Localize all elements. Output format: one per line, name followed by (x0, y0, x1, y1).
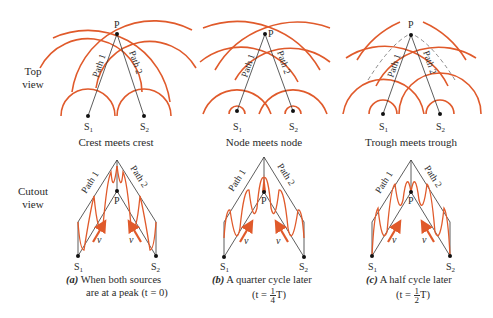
caption-crest-meets-crest: Crest meets crest (78, 136, 153, 148)
row-label-cutout-line2: view (8, 198, 58, 211)
velocity-label-c-left: v (392, 234, 397, 245)
row-label-cutout-view: Cutout view (8, 185, 58, 211)
subcaption-b-time: (t = 14T) (212, 287, 312, 304)
path2-label-c-cut: Path 2 (422, 164, 444, 190)
subcaption-c-letter: (c) (366, 274, 378, 285)
path2-label-a-cut: Path 2 (128, 164, 150, 190)
time-prefix-c: (t = (396, 289, 411, 300)
subcaption-c-line1: A half cycle later (380, 274, 452, 285)
s2-label-b-top: S2 (289, 121, 299, 134)
velocity-label-c-right: v (422, 234, 427, 245)
s2-label-c-top: S2 (436, 121, 446, 134)
subcaption-b: (b) A quarter cycle later (t = 14T) (212, 273, 312, 304)
p-label-b-cut: P (261, 195, 267, 206)
subcaption-a-line2: are at a peak (t = 0) (66, 286, 168, 299)
time-suffix-b: T) (276, 289, 286, 300)
row-label-top-line2: view (8, 78, 58, 91)
source-s2-b-cut (302, 255, 306, 259)
source-s2-a-top (142, 114, 146, 118)
s1-label-b-top: S1 (233, 121, 243, 134)
p-label-b-top: P (268, 28, 274, 39)
source-s1-c-top (381, 112, 385, 116)
subcaption-a-letter: (a) (66, 274, 78, 285)
caption-trough-meets-trough: Trough meets trough (365, 136, 457, 148)
source-s1-b-cut (222, 255, 226, 259)
point-p-c-cut (409, 190, 413, 194)
path1-label-b-cut: Path 1 (226, 167, 248, 193)
p-label-c-top: P (408, 19, 414, 30)
subcaption-a: (a) When both sources are at a peak (t =… (66, 273, 168, 299)
path2-label-b-top: Path 2 (275, 49, 292, 75)
caption-node-meets-node: Node meets node (226, 136, 302, 148)
point-p-c-top (409, 33, 413, 37)
source-s1-c-cut (370, 254, 374, 258)
p-label-a-cut: P (114, 195, 120, 206)
row-label-top-line1: Top (8, 65, 58, 78)
source-s1-a-cut (76, 254, 80, 258)
row-label-cutout-line1: Cutout (8, 185, 58, 198)
velocity-label-b-left: v (244, 235, 249, 246)
s1-label-c-top: S1 (379, 121, 389, 134)
velocity-label-a-right: v (129, 234, 134, 245)
path1-label-b-top: Path 1 (239, 52, 256, 78)
subcaption-b-letter: (b) (212, 274, 224, 285)
point-p-b-top (263, 32, 267, 36)
velocity-label-b-right: v (276, 235, 281, 246)
source-s1-a-top (86, 114, 90, 118)
s2-label-a-top: S2 (140, 121, 150, 134)
midpoint-spike-b (262, 174, 266, 192)
point-p-b-cut (262, 190, 266, 194)
p-label-c-cut: P (408, 195, 414, 206)
source-s2-a-cut (154, 254, 158, 258)
interference-diagram: Path 1 Path 2 Path 1 Path 2 Path 1 Path … (0, 0, 493, 318)
s1-label-a-top: S1 (84, 121, 94, 134)
point-p-a-cut (115, 189, 119, 193)
source-s2-c-cut (448, 254, 452, 258)
time-suffix-c: T) (420, 289, 430, 300)
time-prefix-b: (t = (252, 289, 267, 300)
subcaption-a-line1: When both sources (81, 274, 161, 285)
path2-label-b-cut: Path 2 (275, 162, 297, 188)
source-s2-b-top (291, 109, 295, 113)
point-p-a-top (115, 32, 119, 36)
p-label-a-top: P (114, 19, 120, 30)
source-s1-b-top (235, 109, 239, 113)
path2-label-c-top: Path 2 (421, 49, 438, 75)
velocity-label-a-left: v (97, 234, 102, 245)
subcaption-b-line1: A quarter cycle later (226, 274, 311, 285)
subcaption-c-time: (t = 12T) (366, 287, 452, 304)
row-label-top-view: Top view (8, 65, 58, 91)
source-s2-c-top (438, 112, 442, 116)
subcaption-c: (c) A half cycle later (t = 12T) (366, 273, 452, 304)
